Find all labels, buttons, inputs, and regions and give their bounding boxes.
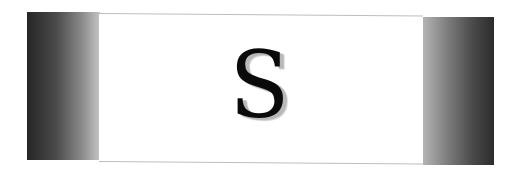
- left-gradient-bar: [27, 12, 100, 160]
- letter-s-glyph: S: [230, 36, 287, 136]
- right-gradient-bar: [423, 17, 494, 165]
